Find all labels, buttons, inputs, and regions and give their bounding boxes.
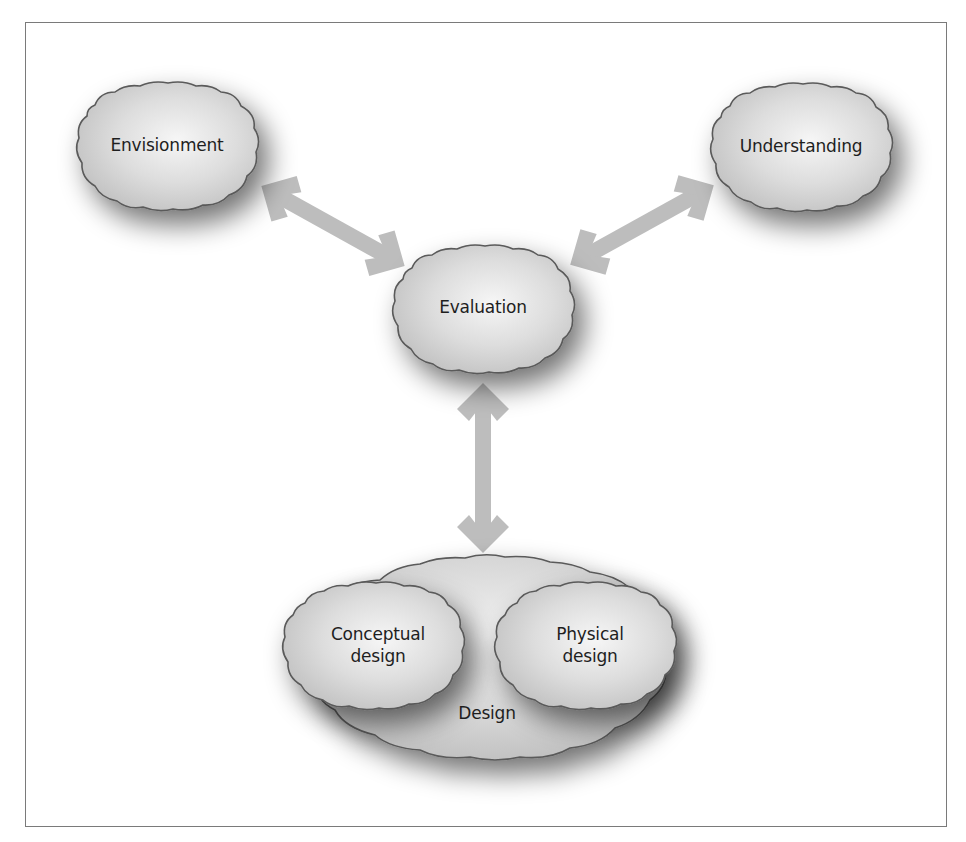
label-physical-design: Physical design <box>520 623 660 667</box>
label-understanding: Understanding <box>740 135 863 157</box>
label-physical-design-line2: design <box>520 645 660 667</box>
label-design: Design <box>458 702 516 724</box>
arrow-understanding-evaluation <box>558 163 727 288</box>
label-conceptual-design-line2: design <box>308 645 448 667</box>
label-physical-design-line1: Physical <box>520 623 660 645</box>
diagram-canvas: Envisionment Understanding Evaluation De… <box>0 0 966 842</box>
label-conceptual-design-line1: Conceptual <box>308 623 448 645</box>
label-conceptual-design: Conceptual design <box>308 623 448 667</box>
arrow-evaluation-design <box>457 383 509 553</box>
label-evaluation: Evaluation <box>439 296 527 318</box>
arrow-envisionment-evaluation <box>249 163 418 288</box>
label-envisionment: Envisionment <box>110 134 223 156</box>
